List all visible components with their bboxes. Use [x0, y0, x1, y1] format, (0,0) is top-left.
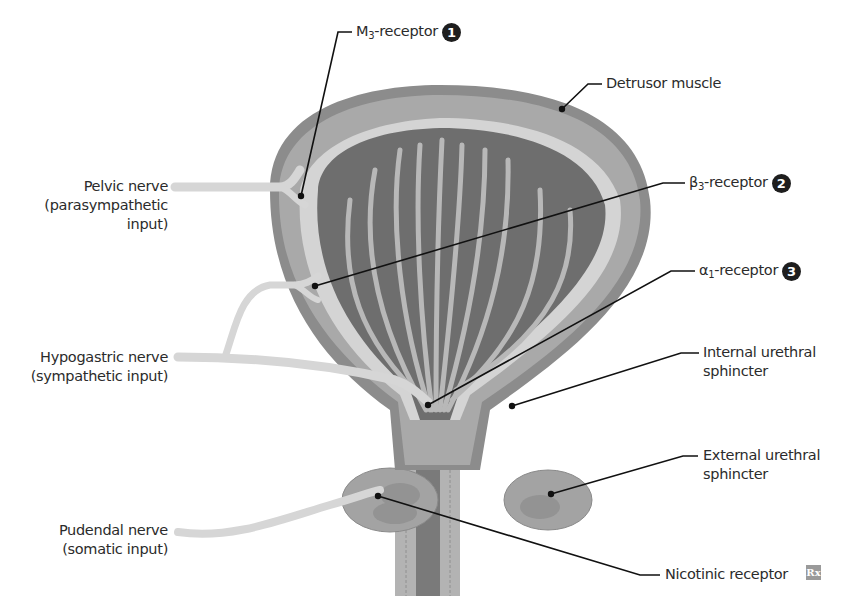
label-internal-urethral-sphincter: Internal urethral sphincter [703, 343, 816, 381]
label-suffix: -receptor [374, 23, 438, 39]
label-line: sphincter [703, 465, 820, 484]
label-pudendal-nerve: Pudendal nerve (somatic input) [30, 521, 168, 559]
number-badge-1: 1 [442, 23, 461, 42]
number-badge-3: 3 [782, 262, 801, 281]
label-beta3-receptor: β3-receptor2 [689, 173, 791, 196]
bladder-diagram [0, 0, 860, 596]
number-badge-2: 2 [772, 174, 791, 193]
label-hypogastric-nerve: Hypogastric nerve (sympathetic input) [10, 348, 168, 386]
label-prefix: α [699, 262, 708, 278]
label-line: (sympathetic input) [10, 367, 168, 386]
label-prefix: β [689, 174, 698, 190]
label-alpha1-receptor: α1-receptor3 [699, 261, 801, 284]
label-line: input) [40, 215, 168, 234]
label-external-urethral-sphincter: External urethral sphincter [703, 446, 820, 484]
label-line: Pelvic nerve [40, 177, 168, 196]
label-line: (parasympathetic [40, 196, 168, 215]
rx-logo-icon: Rx [806, 565, 821, 580]
label-line: External urethral [703, 446, 820, 465]
label-line: Hypogastric nerve [10, 348, 168, 367]
label-nicotinic-receptor: Nicotinic receptor [665, 565, 788, 584]
label-detrusor-muscle: Detrusor muscle [606, 74, 721, 93]
label-suffix: -receptor [714, 262, 778, 278]
bladder-wall [270, 85, 651, 470]
label-line: sphincter [703, 362, 816, 381]
label-line: (somatic input) [30, 540, 168, 559]
label-line: Pudendal nerve [30, 521, 168, 540]
label-line: Internal urethral [703, 343, 816, 362]
label-suffix: -receptor [704, 174, 768, 190]
label-m3-receptor: M3-receptor1 [356, 22, 461, 45]
label-prefix: M [356, 23, 368, 39]
label-pelvic-nerve: Pelvic nerve (parasympathetic input) [40, 177, 168, 234]
